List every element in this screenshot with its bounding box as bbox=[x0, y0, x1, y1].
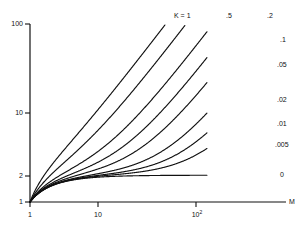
y-tick-label-2: 2 bbox=[6, 172, 23, 179]
curve-label-k-0-005: .005 bbox=[275, 141, 289, 148]
curve-k-0 bbox=[30, 175, 207, 202]
curve-k-0-1 bbox=[30, 58, 207, 202]
x-tick-100-exponent: 2 bbox=[200, 209, 203, 215]
x-tick-marks bbox=[30, 202, 196, 207]
curve-label-k-0-1: .1 bbox=[280, 36, 286, 43]
y-tick-label-1: 1 bbox=[6, 198, 23, 205]
x-tick-100-base: 10 bbox=[192, 211, 200, 218]
curve-k-0-02 bbox=[30, 113, 207, 202]
y-tick-marks bbox=[25, 24, 30, 202]
curve-group bbox=[30, 25, 207, 202]
curve-label-k-0-5: .5 bbox=[226, 12, 232, 19]
curve-label-k-0-01: .01 bbox=[277, 120, 287, 127]
curve-label-k-1: K = 1 bbox=[174, 12, 191, 19]
plot-area bbox=[0, 0, 303, 229]
y-tick-label-100: 100 bbox=[6, 20, 23, 27]
curve-label-k-0-2: .2 bbox=[267, 12, 273, 19]
x-tick-label-100: 102 bbox=[187, 211, 207, 218]
x-axis-title: M bbox=[289, 198, 295, 205]
y-tick-label-10: 10 bbox=[6, 109, 23, 116]
curve-label-k-0-02: .02 bbox=[277, 96, 287, 103]
x-tick-label-1: 1 bbox=[22, 211, 38, 218]
curve-label-k-0: 0 bbox=[280, 171, 284, 178]
chart-figure: 100 10 2 1 1 10 102 M K = 1 .5 .2 .1 .05… bbox=[0, 0, 303, 229]
curve-label-k-0-05: .05 bbox=[277, 61, 287, 68]
curve-k-0-01 bbox=[30, 133, 207, 202]
x-tick-label-10: 10 bbox=[90, 211, 106, 218]
